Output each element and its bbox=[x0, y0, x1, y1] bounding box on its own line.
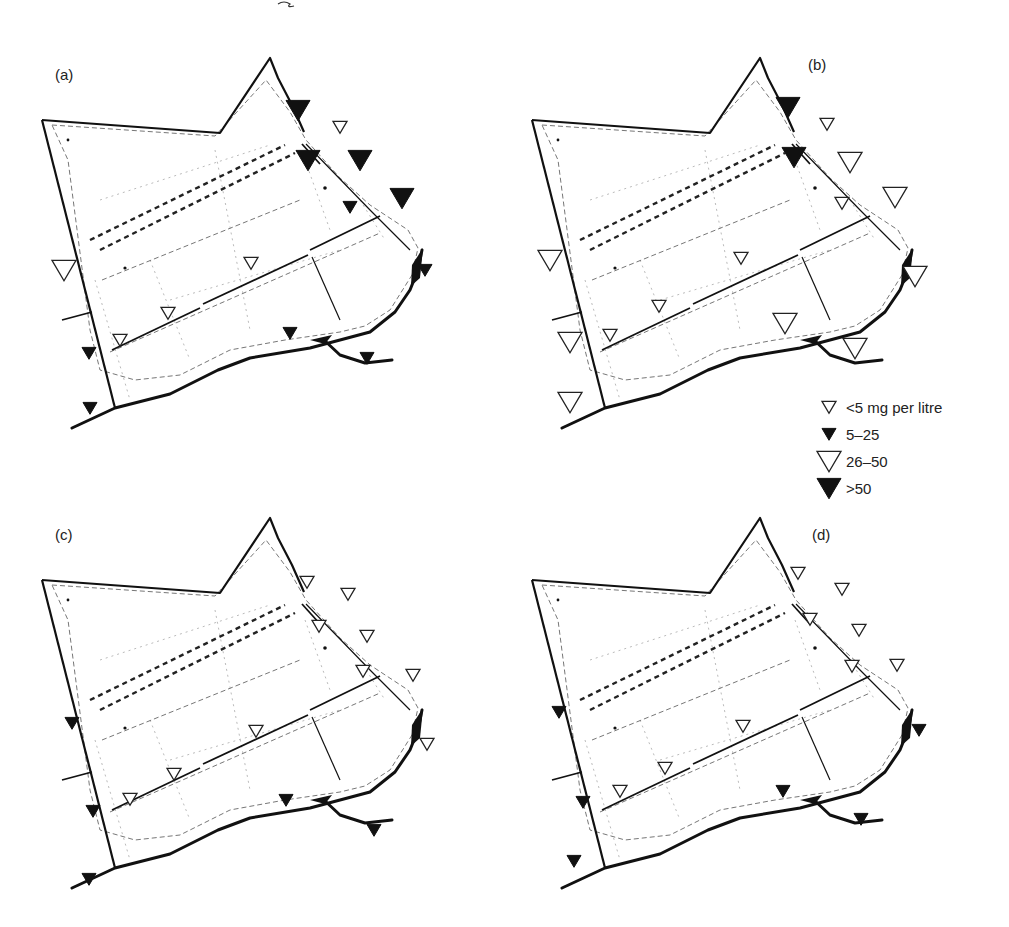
sample-marker-icon bbox=[852, 624, 866, 636]
sample-marker-icon bbox=[736, 720, 750, 732]
top-page-mark bbox=[278, 2, 294, 7]
sample-marker-icon bbox=[538, 250, 562, 270]
panel-label: (b) bbox=[808, 56, 826, 73]
sample-marker-icon bbox=[367, 824, 381, 836]
legend: <5 mg per litre5–2526–50>50 bbox=[817, 399, 942, 499]
legend-label: 26–50 bbox=[846, 453, 888, 470]
legend-label: <5 mg per litre bbox=[846, 399, 942, 416]
sample-marker-icon bbox=[791, 567, 805, 579]
sample-marker-icon bbox=[776, 97, 800, 117]
legend-marker-icon bbox=[822, 401, 836, 413]
sample-marker-icon bbox=[835, 197, 849, 209]
site-map bbox=[532, 58, 913, 428]
sample-marker-icon bbox=[912, 724, 926, 736]
sample-marker-icon bbox=[552, 706, 566, 718]
sample-marker-icon bbox=[341, 588, 355, 600]
sample-marker-icon bbox=[613, 785, 627, 797]
legend-label: >50 bbox=[846, 480, 871, 497]
sample-marker-icon bbox=[820, 118, 834, 130]
sample-marker-icon bbox=[52, 260, 76, 280]
figure-canvas: (a)(b)(c)(d) <5 mg per litre5–2526–50>50 bbox=[0, 0, 1009, 927]
sample-marker-icon bbox=[343, 201, 357, 213]
sample-marker-icon bbox=[420, 738, 434, 750]
sample-marker-icon bbox=[390, 188, 414, 208]
sample-marker-icon bbox=[244, 257, 258, 269]
map-panel-a: (a) bbox=[42, 58, 432, 428]
legend-marker-icon bbox=[817, 478, 841, 498]
legend-label: 5–25 bbox=[846, 426, 879, 443]
sample-marker-icon bbox=[283, 327, 297, 339]
sample-marker-icon bbox=[86, 805, 100, 817]
sample-marker-icon bbox=[83, 402, 97, 414]
sample-marker-icon bbox=[603, 329, 617, 341]
sample-marker-icon bbox=[658, 762, 672, 774]
sample-marker-icon bbox=[558, 332, 582, 352]
site-map bbox=[532, 518, 913, 888]
sample-marker-icon bbox=[356, 665, 370, 677]
sample-marker-icon bbox=[249, 725, 263, 737]
sample-marker-icon bbox=[843, 338, 867, 358]
legend-marker-icon bbox=[822, 428, 836, 440]
sample-marker-icon bbox=[82, 347, 96, 359]
panel-label: (a) bbox=[55, 66, 73, 83]
sample-marker-icon bbox=[333, 121, 347, 133]
sample-marker-icon bbox=[883, 187, 907, 207]
sample-marker-icon bbox=[652, 300, 666, 312]
panel-label: (c) bbox=[55, 526, 73, 543]
site-map bbox=[42, 58, 423, 428]
sample-marker-icon bbox=[406, 669, 420, 681]
sample-marker-icon bbox=[734, 252, 748, 264]
sample-marker-icon bbox=[835, 583, 849, 595]
map-panel-d: (d) bbox=[532, 518, 926, 888]
site-map bbox=[42, 518, 423, 888]
sample-marker-icon bbox=[360, 630, 374, 642]
sample-marker-icon bbox=[312, 620, 326, 632]
sample-marker-icon bbox=[348, 150, 372, 170]
map-panel-b: (b) bbox=[532, 56, 927, 428]
sample-marker-icon bbox=[782, 147, 806, 167]
legend-marker-icon bbox=[817, 451, 841, 471]
sample-marker-icon bbox=[558, 392, 582, 412]
sample-marker-icon bbox=[567, 855, 581, 867]
panels: (a)(b)(c)(d) bbox=[42, 56, 927, 888]
sample-marker-icon bbox=[890, 659, 904, 671]
sample-marker-icon bbox=[773, 313, 797, 333]
sample-marker-icon bbox=[838, 152, 862, 172]
sample-marker-icon bbox=[65, 717, 79, 729]
map-panel-c: (c) bbox=[42, 518, 434, 888]
sample-marker-icon bbox=[776, 785, 790, 797]
sample-marker-icon bbox=[286, 100, 310, 120]
panel-label: (d) bbox=[812, 526, 830, 543]
